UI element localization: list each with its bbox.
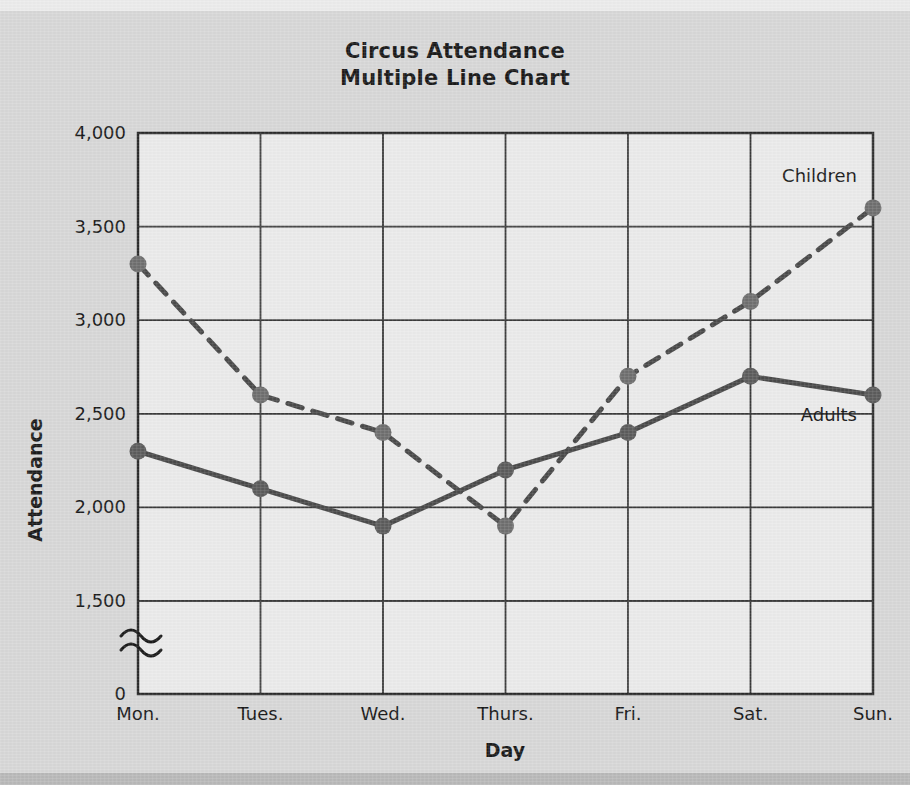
data-point-children-Wed [375, 424, 392, 441]
y-tick-label-2500: 2,500 [74, 403, 126, 424]
series-label-children: Children [782, 165, 857, 186]
x-tick-label-0: Mon. [116, 703, 160, 724]
x-tick-label-3: Thurs. [476, 703, 533, 724]
y-axis-title: Attendance [24, 418, 46, 541]
data-point-children-Mon [130, 256, 147, 273]
y-tick-label-3500: 3,500 [74, 216, 126, 237]
data-point-adults-Wed [375, 518, 392, 535]
data-point-adults-Tues [252, 480, 269, 497]
x-tick-label-2: Wed. [361, 703, 406, 724]
data-point-children-Tues [252, 387, 269, 404]
x-tick-label-5: Sat. [733, 703, 768, 724]
data-point-children-Fri [620, 368, 637, 385]
x-tick-label-6: Sun. [853, 703, 893, 724]
data-point-adults-Thurs [497, 461, 514, 478]
series-label-adults: Adults [801, 404, 857, 425]
y-tick-label-0: 0 [115, 683, 126, 704]
x-axis-tick-labels: Mon.Tues.Wed.Thurs.Fri.Sat.Sun. [116, 703, 893, 724]
data-point-children-Sat [742, 293, 759, 310]
y-tick-label-1500: 1,500 [74, 590, 126, 611]
x-tick-label-4: Fri. [614, 703, 641, 724]
data-point-children-Thurs [497, 518, 514, 535]
line-chart-plot: 01,5002,0002,5003,0003,5004,000 Mon.Tues… [0, 0, 910, 785]
data-point-children-Sun [865, 199, 882, 216]
x-tick-label-1: Tues. [237, 703, 284, 724]
data-point-adults-Mon [130, 443, 147, 460]
data-point-adults-Sun [865, 387, 882, 404]
chart-page: Circus Attendance Multiple Line Chart 01… [0, 0, 910, 785]
y-tick-label-3000: 3,000 [74, 309, 126, 330]
y-tick-label-4000: 4,000 [74, 122, 126, 143]
data-point-adults-Fri [620, 424, 637, 441]
y-tick-label-2000: 2,000 [74, 496, 126, 517]
data-point-adults-Sat [742, 368, 759, 385]
y-axis-tick-labels: 01,5002,0002,5003,0003,5004,000 [74, 122, 126, 704]
x-axis-title: Day [485, 739, 526, 761]
